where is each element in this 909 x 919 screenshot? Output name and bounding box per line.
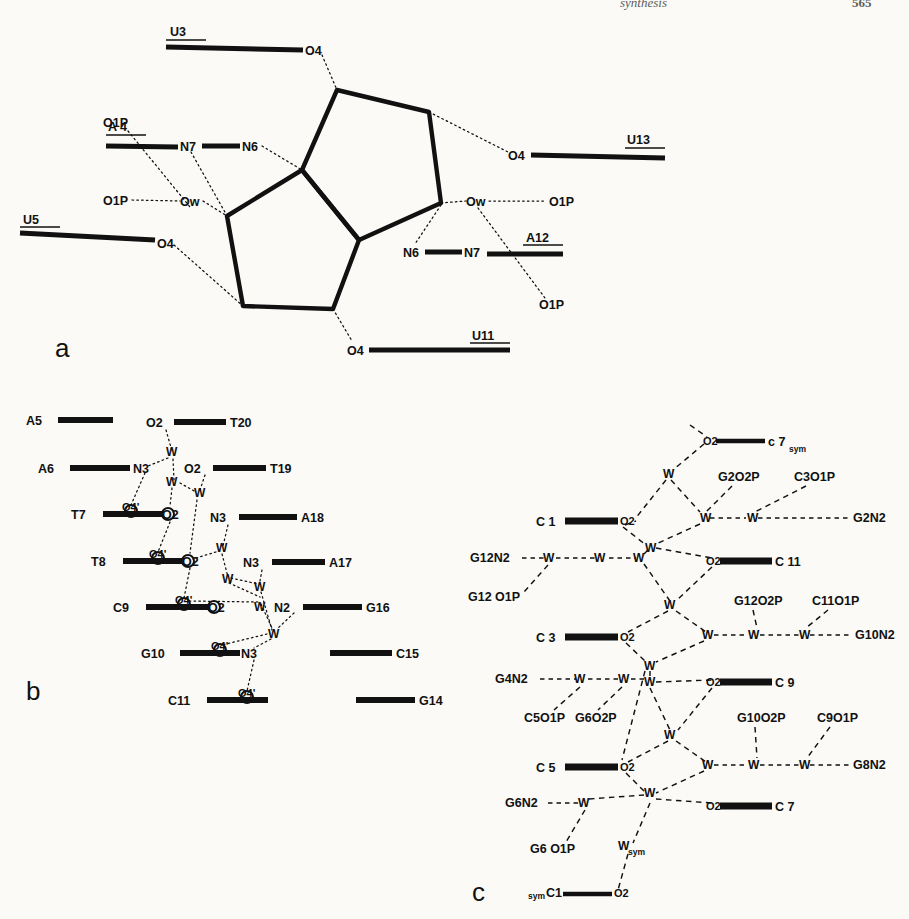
water-pentagon-lower: [227, 170, 359, 309]
atom-o4-u11: O4: [347, 344, 364, 358]
water-c-H: W: [578, 796, 590, 810]
label-c-c7sym: c 7: [768, 435, 785, 449]
atom-n7-left: N7: [180, 140, 196, 154]
hbond-b-w3-o2t8: [190, 500, 197, 553]
label-c-c5: C 5: [536, 761, 556, 775]
hbond-c-wD-wF: [650, 688, 670, 730]
label-c-c7sym-subscript: sym: [789, 444, 806, 454]
atom-o4-u13: O4: [508, 149, 525, 163]
water-c-mid2: W: [702, 628, 714, 642]
label-c-g10n2: G10N2: [855, 628, 895, 642]
hbond-c-wF-o2c5: [628, 741, 668, 762]
hbond-c-wB-o2c3: [628, 611, 668, 632]
label-b-t20: T20: [230, 416, 252, 430]
hbond-c-o2c9-wF: [678, 688, 712, 730]
panel-b: W W W W W W W W A5 T20 A6 T19 T7 A18 T8 …: [26, 414, 443, 708]
label-c-c3o1p: C3O1P: [794, 470, 835, 484]
hbond-b-w4-o2t8: [196, 552, 216, 558]
water-c-4: W: [799, 628, 811, 642]
label-c-c11o1p: C11O1P: [812, 594, 859, 608]
atom-b-o2-t19: O2: [184, 462, 201, 476]
atom-b-o2-c9: O2: [208, 601, 225, 615]
hbond-c-o2c7sym-w1: [673, 444, 704, 470]
panel-letter-b: b: [26, 676, 40, 706]
atom-b-o2-t7: O2: [162, 508, 179, 522]
water-b-6: W: [254, 580, 266, 594]
water-b-1: W: [166, 445, 178, 459]
hbond-c-c9o1p-w6: [807, 727, 830, 758]
water-c-L3: W: [633, 551, 645, 565]
hbond-c-wD-o2c9: [656, 680, 712, 682]
hbond-ring-to-o4-u13: [429, 112, 508, 152]
water-c-L1: W: [543, 551, 555, 565]
water-c-mid1: W: [700, 511, 712, 525]
hbond-b-n2g16-w8: [277, 613, 294, 629]
water-b-5: W: [222, 572, 234, 586]
hbond-c-g2o2p-wmid1: [706, 486, 732, 512]
label-c-g6o1p: G6 O1P: [530, 842, 575, 856]
hbond-c-wmid2-wC: [656, 641, 704, 662]
label-c-g6o2p: G6O2P: [575, 711, 617, 725]
hbond-c-wE1-c5o1p: [554, 687, 580, 710]
atom-b-n3-a6: N3: [133, 462, 149, 476]
label-u3: U3: [170, 25, 186, 39]
panel-a: U3 A 4 U5 U13 A12 U11 O4 O1P N7 N6 O1P O…: [20, 25, 665, 363]
water-c-E1: W: [574, 672, 586, 686]
atom-n7-right: N7: [464, 246, 480, 260]
hbond-ring-to-o4-u11: [333, 309, 352, 341]
atom-o1p-upper: O1P: [103, 116, 128, 130]
label-c-c3: C 3: [536, 631, 556, 645]
water-c-L2: W: [594, 551, 606, 565]
label-b-a17: A17: [329, 556, 352, 570]
hbond-c-g12o2p-w3: [753, 610, 757, 628]
atom-b-n3-g10: N3: [241, 647, 257, 661]
water-c-1: W: [663, 467, 675, 481]
label-c-c1sym: C1: [546, 886, 562, 900]
atom-b-o4prime-t8: O4': [149, 548, 167, 560]
label-c-g2n2: G2N2: [853, 511, 886, 525]
label-b-c9: C9: [113, 601, 129, 615]
label-b-g10: G10: [141, 647, 165, 661]
hbond-c-o2c3-wC: [626, 643, 646, 662]
hbond-ow-to-ring-left: [203, 201, 227, 216]
label-c-c1sym-presubscript: sym: [528, 891, 545, 901]
hbond-c-c11o1p-w4: [806, 610, 828, 628]
figure-canvas: U3 A 4 U5 U13 A12 U11 O4 O1P N7 N6 O1P O…: [0, 0, 909, 919]
hbond-c-o2c5-wG: [626, 773, 646, 793]
water-b-2: W: [166, 475, 178, 489]
hbond-b-w8-o4g10: [222, 634, 267, 645]
water-c-C: W: [644, 659, 656, 673]
residue-bar-a4: [106, 146, 178, 147]
atom-b-n3-a18: N3: [210, 511, 226, 525]
atom-b-n3-a17: N3: [243, 556, 259, 570]
atom-c-o2-c7sym: O2: [703, 435, 718, 447]
label-b-a5: A5: [26, 414, 42, 428]
label-b-a18: A18: [301, 511, 324, 525]
atom-c-o2-c1sym: O2: [614, 887, 629, 899]
atom-b-o4prime-g10: O4': [211, 640, 229, 652]
label-a12: A12: [526, 231, 549, 245]
atom-ow-right: Ow: [466, 195, 486, 209]
label-b-g14: G14: [419, 694, 443, 708]
hbond-c-wL1-g12o1p: [524, 565, 548, 592]
hbond-c-wE2-g6o2p: [598, 687, 622, 710]
water-c-5: W: [748, 758, 760, 772]
atom-n6-left: N6: [242, 140, 258, 154]
label-b-c15: C15: [396, 647, 419, 661]
label-b-t7: T7: [71, 508, 86, 522]
water-c-mid3: W: [702, 758, 714, 772]
atom-o1p-right: O1P: [549, 195, 574, 209]
water-c-D: W: [644, 675, 656, 689]
atom-o4-u5: O4: [157, 237, 174, 251]
hbond-c-wG-o2c7: [656, 799, 712, 803]
label-b-t19: T19: [270, 462, 292, 476]
atom-b-o2-t20: O2: [146, 416, 163, 430]
water-c-sym-subscript: sym: [628, 847, 645, 857]
label-c-c5o1p: C5O1P: [524, 711, 565, 725]
label-c-g8n2: G8N2: [853, 758, 886, 772]
atom-c-o2-c1: O2: [620, 515, 635, 527]
hbond-c-wG-wsym: [633, 803, 650, 843]
label-u13: U13: [627, 133, 650, 147]
water-b-8: W: [268, 627, 280, 641]
label-c-g12n2: G12N2: [470, 551, 510, 565]
